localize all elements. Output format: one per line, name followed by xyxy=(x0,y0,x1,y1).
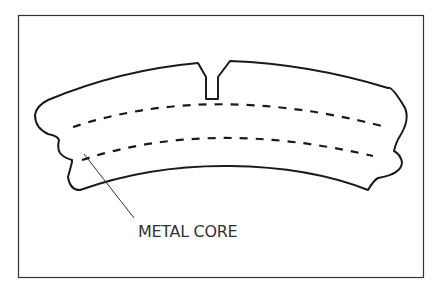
core-dash-lower xyxy=(82,138,373,160)
seal-ring-outline xyxy=(35,61,407,190)
diagram-canvas xyxy=(0,0,442,294)
metal-core-label: METAL CORE xyxy=(138,222,237,241)
core-dash-upper xyxy=(73,104,382,127)
metal-core-dashes xyxy=(73,104,382,160)
